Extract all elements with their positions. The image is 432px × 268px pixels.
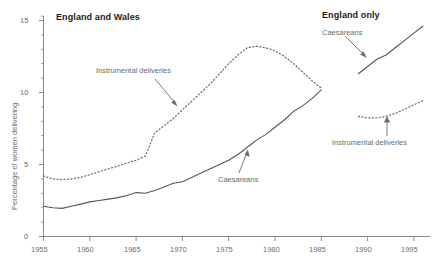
x-tick-label-1955: 1955 [31, 245, 48, 254]
annotation-label-ew-caesareans: Caesareans [218, 175, 258, 184]
series-line-ew-caesareans [44, 90, 322, 209]
x-axis-ticks [44, 237, 414, 242]
y-axis-major-ticks [39, 21, 44, 237]
y-tick-label-15: 15 [20, 16, 28, 25]
annotation-arrow-ew-instrumental [155, 79, 176, 104]
x-tick-label-1960: 1960 [77, 245, 94, 254]
chart-plot-area [0, 0, 432, 268]
series-line-eo-instrumental [358, 101, 422, 118]
x-tick-label-1995: 1995 [401, 245, 418, 254]
y-tick-label-0: 0 [24, 232, 28, 241]
annotation-label-eo-instrumental: Instrumental deliveries [332, 138, 407, 147]
x-tick-label-1965: 1965 [124, 245, 141, 254]
annotation-label-eo-caesareans: Caesareans [322, 28, 362, 37]
panel-title-england-only: England only [322, 10, 380, 20]
annotation-arrowhead-eo-instrumental [384, 116, 390, 122]
x-tick-label-1985: 1985 [309, 245, 326, 254]
x-tick-label-1990: 1990 [355, 245, 372, 254]
y-axis-title: Percentage of women delivering [10, 103, 19, 210]
y-tick-label-10: 10 [20, 88, 28, 97]
x-tick-label-1970: 1970 [170, 245, 187, 254]
chart-figure: Percentage of women delivering 0 5 10 15… [0, 0, 432, 268]
x-tick-label-1980: 1980 [263, 245, 280, 254]
series-line-ew-instrumental [44, 46, 322, 179]
x-tick-label-1975: 1975 [216, 245, 233, 254]
panel-title-england-and-wales: England and Wales [56, 12, 140, 22]
annotation-arrowhead-ew-instrumental [171, 100, 177, 107]
y-tick-label-5: 5 [24, 160, 28, 169]
annotation-label-ew-instrumental: Instrumental deliveries [96, 66, 171, 75]
series-line-eo-caesareans [358, 26, 422, 73]
